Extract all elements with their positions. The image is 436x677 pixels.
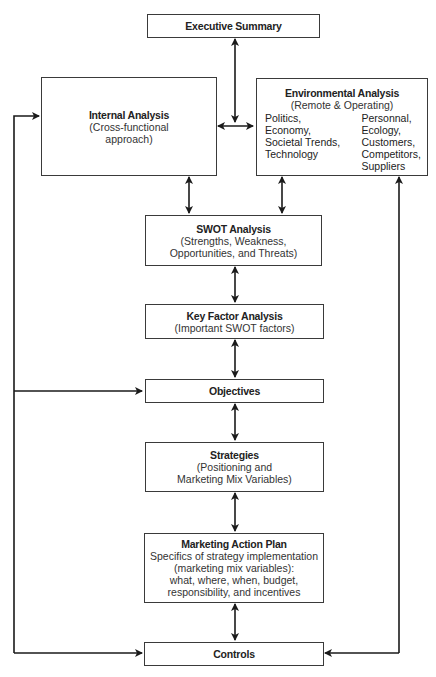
node-objectives: Objectives xyxy=(145,379,324,403)
node-environmental-analysis: Environmental Analysis (Remote & Operati… xyxy=(256,78,428,176)
node-marketing-action-plan: Marketing Action Plan Specifics of strat… xyxy=(144,533,324,603)
environmental-analysis-title: Environmental Analysis xyxy=(257,87,427,99)
swot-analysis-line: (Strengths, Weakness, xyxy=(180,235,286,247)
environmental-remote-factors: Politics, Economy, Societal Trends, Tech… xyxy=(265,112,340,172)
factor-item: Politics, xyxy=(265,112,340,124)
factor-item: Economy, xyxy=(265,124,340,136)
factor-item: Suppliers xyxy=(361,160,421,172)
strategies-line: (Positioning and xyxy=(197,461,272,473)
marketing-action-plan-line: what, where, when, budget, xyxy=(170,574,298,586)
factor-item: Societal Trends, xyxy=(265,136,340,148)
internal-analysis-title: Internal Analysis xyxy=(89,109,169,121)
marketing-action-plan-line: responsibility, and incentives xyxy=(168,586,301,598)
node-strategies: Strategies (Positioning and Marketing Mi… xyxy=(145,442,324,492)
left-feedback-to-internal xyxy=(14,116,39,653)
strategies-line: Marketing Mix Variables) xyxy=(177,473,292,485)
node-executive-summary: Executive Summary xyxy=(147,14,320,38)
controls-title: Controls xyxy=(213,648,255,660)
key-factor-analysis-line: (Important SWOT factors) xyxy=(175,322,295,334)
environmental-analysis-subtitle: (Remote & Operating) xyxy=(257,99,427,111)
internal-analysis-line: approach) xyxy=(105,133,152,145)
node-key-factor-analysis: Key Factor Analysis (Important SWOT fact… xyxy=(145,304,324,339)
factor-item: Technology xyxy=(265,148,340,160)
environmental-operating-factors: Personnal, Ecology, Customers, Competito… xyxy=(361,112,421,172)
factor-item: Personnal, xyxy=(361,112,421,124)
swot-analysis-line: Opportunities, and Threats) xyxy=(170,247,298,259)
executive-summary-title: Executive Summary xyxy=(185,20,281,32)
node-controls: Controls xyxy=(144,642,324,666)
marketing-action-plan-line: (marketing mix variables): xyxy=(174,562,294,574)
node-internal-analysis: Internal Analysis (Cross-functional appr… xyxy=(41,77,217,176)
strategies-title: Strategies xyxy=(210,449,259,461)
node-swot-analysis: SWOT Analysis (Strengths, Weakness, Oppo… xyxy=(145,215,322,266)
objectives-title: Objectives xyxy=(209,385,260,397)
marketing-action-plan-title: Marketing Action Plan xyxy=(181,538,287,550)
key-factor-analysis-title: Key Factor Analysis xyxy=(186,310,282,322)
swot-analysis-title: SWOT Analysis xyxy=(196,223,271,235)
marketing-action-plan-line: Specifics of strategy implementation xyxy=(150,550,318,562)
factor-item: Ecology, xyxy=(361,124,421,136)
factor-item: Customers, xyxy=(361,136,421,148)
environmental-factor-columns: Politics, Economy, Societal Trends, Tech… xyxy=(257,112,427,172)
internal-analysis-line: (Cross-functional xyxy=(89,121,168,133)
factor-item: Competitors, xyxy=(361,148,421,160)
